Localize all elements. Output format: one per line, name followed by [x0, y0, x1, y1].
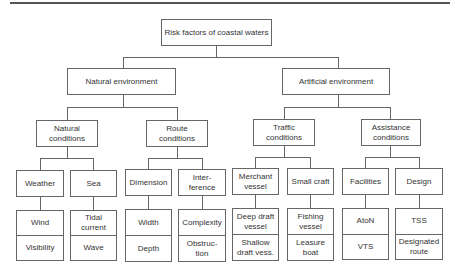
node-facilities: Facilities	[342, 168, 389, 195]
connector	[310, 157, 311, 168]
leaf-shallow-draft-vessel: Shallow draft vess.	[233, 234, 278, 260]
leaf-width: Width	[126, 210, 171, 235]
node-assistance-conditions: Assistance conditions	[361, 119, 421, 146]
node-small-craft: Small craft	[287, 168, 334, 195]
leaf-group-design: TSS Designated route	[395, 208, 443, 260]
connector	[123, 95, 124, 107]
leaf-wave: Wave	[71, 235, 116, 260]
connector	[284, 146, 285, 157]
connector	[40, 158, 41, 170]
connector	[255, 157, 311, 158]
connector	[338, 95, 339, 107]
node-weather: Weather	[16, 170, 64, 197]
connector	[123, 57, 339, 58]
connector	[93, 158, 94, 170]
leaf-group-dimension: Width Depth	[125, 209, 172, 262]
connector	[255, 157, 256, 168]
leaf-group-small-craft: Fishing vessel Leasure boat	[287, 208, 334, 261]
leaf-designated-route: Designated route	[396, 234, 442, 260]
connector	[310, 195, 311, 208]
leaf-complexity: Complexity	[179, 210, 225, 235]
node-interference: Inter- ference	[178, 169, 226, 196]
connector	[67, 107, 178, 108]
connector	[93, 197, 94, 210]
connector	[365, 157, 420, 158]
root-node: Risk factors of coastal waters	[161, 19, 272, 46]
node-dimension: Dimension	[125, 169, 172, 196]
top-rule	[10, 2, 450, 4]
connector	[419, 157, 420, 168]
leaf-fishing-vessel: Fishing vessel	[288, 209, 333, 234]
connector	[40, 158, 94, 159]
connector	[284, 107, 285, 119]
leaf-group-sea: Tidal current Wave	[70, 210, 117, 261]
connector	[365, 157, 366, 168]
connector	[148, 196, 149, 209]
connector	[40, 197, 41, 210]
node-traffic-conditions: Traffic conditions	[253, 119, 315, 146]
leaf-tss: TSS	[396, 209, 442, 234]
connector	[123, 57, 124, 68]
connector	[67, 107, 68, 120]
node-route-conditions: Route conditions	[146, 120, 208, 147]
connector	[177, 107, 178, 120]
connector	[255, 195, 256, 208]
node-natural-environment: Natural environment	[67, 68, 176, 95]
connector	[390, 107, 391, 119]
connector	[338, 57, 339, 68]
connector	[202, 196, 203, 209]
leaf-group-facilities: AtoN VTS	[342, 208, 389, 260]
leaf-obstruction: Obstruc- tion	[179, 235, 225, 261]
node-merchant-vessel: Merchant vessel	[232, 168, 279, 195]
leaf-leasure-boat: Leasure boat	[288, 234, 333, 260]
node-artificial-environment: Artificial environment	[282, 68, 390, 95]
node-natural-conditions: Natural conditions	[36, 120, 98, 147]
leaf-depth: Depth	[126, 235, 171, 261]
leaf-vts: VTS	[343, 234, 388, 260]
connector	[216, 46, 217, 57]
connector	[148, 158, 203, 159]
node-sea: Sea	[70, 170, 117, 197]
leaf-group-merchant-vessel: Deep draft vessel Shallow draft vess.	[232, 208, 279, 261]
leaf-group-interference: Complexity Obstruc- tion	[178, 209, 226, 262]
connector	[148, 158, 149, 169]
connector	[390, 146, 391, 157]
node-design: Design	[395, 168, 443, 195]
connector	[202, 158, 203, 169]
leaf-group-weather: Wind Visibility	[16, 210, 64, 261]
connector	[365, 195, 366, 208]
leaf-deep-draft-vessel: Deep draft vessel	[233, 209, 278, 234]
connector	[284, 107, 391, 108]
leaf-visibility: Visibility	[17, 235, 63, 260]
connector	[67, 147, 68, 158]
leaf-wind: Wind	[17, 211, 63, 235]
leaf-aton: AtoN	[343, 209, 388, 234]
connector	[419, 195, 420, 208]
connector	[177, 147, 178, 158]
leaf-tidal-current: Tidal current	[71, 211, 116, 235]
